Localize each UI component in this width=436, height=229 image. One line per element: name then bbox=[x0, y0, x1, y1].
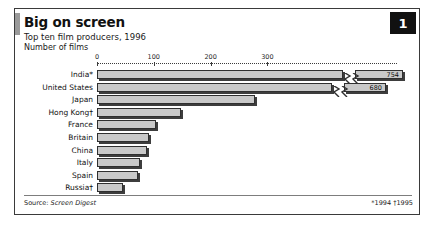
bar-row: Russia† bbox=[15, 183, 421, 193]
bar-row: Hong Kong† bbox=[15, 108, 421, 118]
bar bbox=[97, 95, 255, 104]
bar-category-label: China bbox=[17, 146, 93, 155]
bar bbox=[97, 108, 181, 117]
title-accent-bar bbox=[15, 13, 20, 35]
bar bbox=[97, 70, 343, 79]
x-tick-label: 0 bbox=[95, 53, 99, 61]
bar-category-label: Italy bbox=[17, 158, 93, 167]
bar bbox=[97, 171, 138, 180]
chart-units-label: Number of films bbox=[24, 43, 88, 52]
bar-row: United States680 bbox=[15, 83, 421, 93]
bar-row: Italy bbox=[15, 158, 421, 168]
x-tick-mark bbox=[154, 62, 155, 66]
bar-row: India*754 bbox=[15, 70, 421, 80]
source-prefix: Source: bbox=[24, 199, 51, 207]
bar-category-label: Hong Kong† bbox=[17, 108, 93, 117]
source-note: Source: Screen Digest bbox=[24, 199, 96, 207]
bar-category-label: Britain bbox=[17, 133, 93, 142]
footer-divider bbox=[24, 195, 412, 196]
bar-row: Britain bbox=[15, 133, 421, 143]
page-title: Big on screen bbox=[24, 14, 125, 30]
source-name: Screen Digest bbox=[51, 199, 96, 207]
bar-row: China bbox=[15, 146, 421, 156]
bar-category-label: India* bbox=[17, 70, 93, 79]
bar-category-label: Spain bbox=[17, 171, 93, 180]
x-tick-mark bbox=[97, 62, 98, 66]
bar bbox=[97, 146, 147, 155]
bar bbox=[97, 183, 123, 192]
bar bbox=[97, 158, 140, 167]
bar-value-label: 680 bbox=[344, 83, 386, 92]
x-tick-mark bbox=[267, 62, 268, 66]
panel-number-badge: 1 bbox=[390, 12, 416, 34]
footnotes: *1994 †1995 bbox=[371, 199, 413, 207]
x-tick-label: 200 bbox=[204, 53, 216, 61]
bar-category-label: United States bbox=[17, 83, 93, 92]
bar-category-label: France bbox=[17, 120, 93, 129]
bar bbox=[97, 133, 149, 142]
x-tick-label: 300 bbox=[261, 53, 273, 61]
axis-break-icon bbox=[333, 82, 341, 93]
bar-row: France bbox=[15, 120, 421, 130]
axis-break-icon bbox=[344, 69, 352, 80]
x-tick-label: 100 bbox=[148, 53, 160, 61]
chart-panel: Big on screen Top ten film producers, 19… bbox=[14, 8, 420, 215]
axis-break-icon bbox=[341, 82, 349, 93]
chart-subtitle: Top ten film producers, 1996 bbox=[24, 32, 146, 42]
bar-category-label: Russia† bbox=[17, 183, 93, 192]
bar-row: Spain bbox=[15, 171, 421, 181]
bar-row: Japan bbox=[15, 95, 421, 105]
bar bbox=[97, 120, 156, 129]
x-tick-mark bbox=[211, 62, 212, 66]
plot-area: 0100200300 India*754United States680Japa… bbox=[15, 53, 421, 193]
bar bbox=[97, 83, 332, 92]
x-axis bbox=[97, 63, 397, 65]
bar-value-label: 754 bbox=[355, 70, 403, 79]
bar-category-label: Japan bbox=[17, 95, 93, 104]
axis-break-icon bbox=[352, 69, 360, 80]
